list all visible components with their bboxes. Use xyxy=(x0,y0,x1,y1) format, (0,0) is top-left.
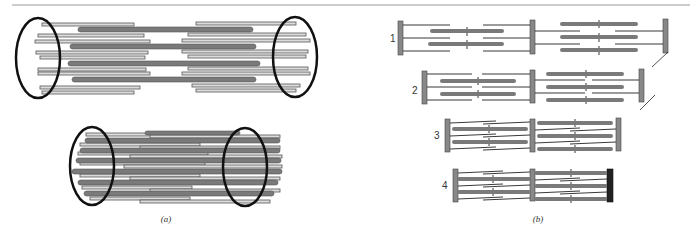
panel-a-relaxed-bundle xyxy=(16,17,317,98)
caption-b: (b) xyxy=(533,214,544,224)
stage-label: 1 xyxy=(390,33,396,44)
stage-2-sarcomere: 2 xyxy=(412,69,644,104)
stage-label: 4 xyxy=(442,180,448,191)
connector-line xyxy=(652,52,668,67)
stage-4-sarcomere: 4 xyxy=(442,169,613,203)
stage-1-sarcomere: 1 xyxy=(390,19,668,55)
caption-a: (a) xyxy=(161,214,172,224)
stage-3-sarcomere: 3 xyxy=(434,118,621,153)
panel-a-contracted-bundle xyxy=(70,127,282,206)
stage-label: 2 xyxy=(412,85,418,96)
figure-canvas: (a) 1 2 xyxy=(0,0,690,235)
stage-label: 3 xyxy=(434,130,440,141)
